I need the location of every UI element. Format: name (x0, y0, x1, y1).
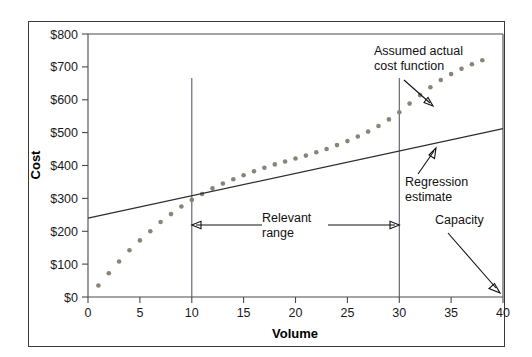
data-point (335, 143, 340, 148)
data-point (241, 173, 246, 178)
annotation-relevant-range: Relevant range (192, 211, 399, 240)
y-tick-label: $600 (50, 93, 78, 107)
data-point (428, 85, 433, 90)
cost-volume-chart: $0 $100 $200 $300 $400 $500 $600 $700 $8… (0, 0, 532, 357)
data-point (273, 162, 278, 167)
series-assumed-actual-cost-function (96, 58, 485, 288)
data-point (366, 129, 371, 134)
y-tick-label: $500 (50, 126, 78, 140)
data-point (449, 72, 454, 77)
data-point (480, 58, 485, 63)
y-tick-label: $0 (64, 291, 78, 305)
annotation-label-line2: estimate (405, 190, 452, 204)
data-point (127, 248, 132, 253)
y-axis-ticks: $0 $100 $200 $300 $400 $500 $600 $700 $8… (50, 28, 88, 305)
y-tick-label: $200 (50, 225, 78, 239)
x-tick-label: 35 (444, 306, 458, 320)
data-point (345, 139, 350, 144)
data-point (138, 238, 143, 243)
annotation-label-line1: Relevant (262, 211, 312, 225)
x-tick-label: 30 (392, 306, 406, 320)
data-point (439, 78, 444, 83)
data-point (356, 134, 361, 139)
y-tick-label: $300 (50, 192, 78, 206)
reference-lines (192, 78, 399, 297)
x-axis-ticks: 0 5 10 15 20 25 30 35 40 (85, 297, 510, 320)
data-point (262, 165, 267, 170)
x-tick-label: 0 (85, 306, 92, 320)
annotation-arrow-line (448, 233, 496, 288)
data-point (158, 220, 163, 225)
data-point (407, 101, 412, 106)
data-point (314, 150, 319, 155)
data-point (190, 198, 195, 203)
x-tick-label: 40 (496, 306, 510, 320)
annotation-label-line2: cost function (374, 59, 444, 73)
annotation-regression-estimate: Regression estimate (405, 148, 468, 204)
x-axis-title: Volume (272, 326, 318, 341)
data-point (148, 229, 153, 234)
data-point (221, 181, 226, 186)
annotation-arrow-line (418, 151, 434, 174)
plot-axes (88, 34, 503, 297)
x-tick-label: 25 (340, 306, 354, 320)
annotation-label-line2: range (262, 226, 294, 240)
annotation-arrow-head (489, 284, 500, 294)
annotation-label-line1: Capacity (435, 213, 484, 227)
figure-root: $0 $100 $200 $300 $400 $500 $600 $700 $8… (0, 0, 532, 357)
data-point (387, 117, 392, 122)
data-point (470, 62, 475, 67)
data-point (283, 159, 288, 164)
data-point (231, 177, 236, 182)
series-regression-estimate-line (88, 129, 503, 218)
data-point (376, 124, 381, 129)
data-point (324, 147, 329, 152)
data-point (252, 169, 257, 174)
data-point (304, 153, 309, 158)
data-point (210, 186, 215, 191)
annotation-label-line1: Assumed actual (374, 44, 463, 58)
data-point (117, 259, 122, 264)
x-tick-label: 15 (237, 306, 251, 320)
data-point (107, 271, 112, 276)
data-point (459, 67, 464, 72)
data-point (96, 283, 101, 288)
annotation-label-line1: Regression (405, 175, 468, 189)
y-tick-label: $700 (50, 60, 78, 74)
y-tick-label: $400 (50, 159, 78, 173)
data-point (169, 212, 174, 217)
data-point (293, 156, 298, 161)
y-axis-title: Cost (28, 150, 43, 180)
x-tick-label: 10 (185, 306, 199, 320)
data-point (179, 204, 184, 209)
data-point (397, 110, 402, 115)
y-tick-label: $800 (50, 28, 78, 42)
x-tick-label: 5 (136, 306, 143, 320)
y-tick-label: $100 (50, 258, 78, 272)
annotation-capacity: Capacity (435, 213, 500, 293)
x-tick-label: 20 (289, 306, 303, 320)
